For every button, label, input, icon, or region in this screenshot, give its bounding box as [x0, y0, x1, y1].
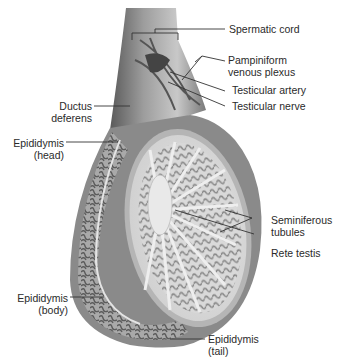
- label-line: (tail): [208, 345, 259, 357]
- label-epididymis-body: Epididymis (body): [6, 292, 68, 316]
- label-line: Seminiferous: [271, 214, 332, 226]
- label-ductus-deferens: Ductus deferens: [40, 100, 92, 124]
- label-epididymis-tail: Epididymis (tail): [208, 333, 259, 357]
- label-line: tubules: [271, 226, 332, 238]
- label-pampiniform-venous-plexus: Pampiniform venous plexus: [228, 54, 295, 78]
- label-line: Epididymis: [6, 137, 64, 149]
- label-seminiferous-tubules: Seminiferous tubules: [271, 214, 332, 238]
- label-line: deferens: [40, 112, 92, 124]
- rete-testis: [148, 175, 172, 235]
- label-line: Ductus: [40, 100, 92, 112]
- label-spermatic-cord: Spermatic cord: [229, 23, 300, 35]
- label-rete-testis: Rete testis: [271, 247, 321, 259]
- label-line: Epididymis: [6, 292, 68, 304]
- label-line: (head): [6, 149, 64, 161]
- label-epididymis-head: Epididymis (head): [6, 137, 64, 161]
- label-line: Epididymis: [208, 333, 259, 345]
- label-line: Pampiniform: [228, 54, 295, 66]
- label-line: (body): [6, 304, 68, 316]
- label-testicular-nerve: Testicular nerve: [232, 100, 306, 112]
- label-line: venous plexus: [228, 66, 295, 78]
- label-testicular-artery: Testicular artery: [232, 84, 306, 96]
